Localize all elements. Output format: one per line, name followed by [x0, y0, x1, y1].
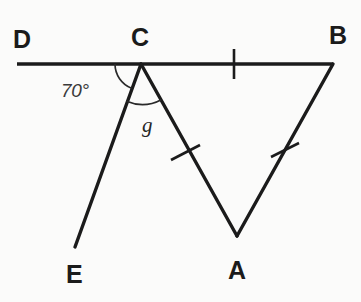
- vertex-label-c: C: [131, 25, 149, 50]
- angle-arc-70: [115, 64, 132, 88]
- angle-label-g: g: [142, 115, 153, 136]
- tick-mark-CA: [171, 145, 200, 160]
- tick-mark-AB: [271, 143, 299, 157]
- vertex-label-e: E: [66, 262, 83, 287]
- vertex-label-a: A: [228, 258, 246, 283]
- geometry-diagram: D C B A E 70° g: [0, 0, 361, 302]
- angle-label-70-degrees: 70°: [61, 81, 89, 100]
- angle-arc-g: [127, 100, 162, 105]
- vertex-label-b: B: [329, 23, 347, 48]
- geometry-canvas: [0, 0, 361, 302]
- vertex-label-d: D: [13, 27, 31, 52]
